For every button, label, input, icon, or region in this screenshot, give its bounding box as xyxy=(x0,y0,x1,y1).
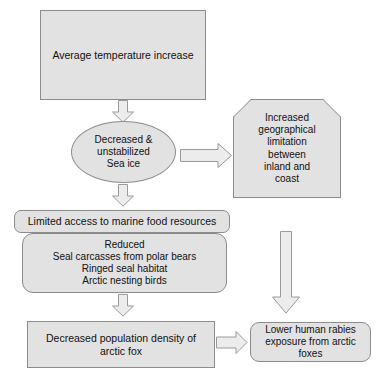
node-decreased-population-density-arctic-fox: Decreased population density of arctic f… xyxy=(27,321,215,368)
node-label: Lower human rabies exposure from arctic … xyxy=(265,324,356,359)
node-limited-access-to-marine-food-resources: Limited access to marine food resources xyxy=(14,210,230,233)
node-label: Decreased population density of arctic f… xyxy=(46,332,196,357)
node-increased-geographical-limitation: Increased geographical limitation betwee… xyxy=(233,99,341,198)
node-average-temperature-increase: Average temperature increase xyxy=(40,10,206,100)
flowchart-canvas: Average temperature increase Decreased &… xyxy=(0,0,382,379)
arrow-down-food-resources-to-fox-density xyxy=(111,294,135,317)
node-lower-human-rabies-exposure: Lower human rabies exposure from arctic … xyxy=(250,322,371,362)
node-label: Reduced Seal carcasses from polar bears … xyxy=(53,239,196,286)
node-reduced-resources-list: Reduced Seal carcasses from polar bears … xyxy=(22,233,227,293)
node-label: Average temperature increase xyxy=(52,49,193,61)
arrow-down-geographical-limitation-to-rabies xyxy=(271,231,301,314)
node-label: Decreased & unstabilized Sea ice xyxy=(95,134,153,169)
arrow-right-sea-ice-to-geographical-limitation xyxy=(180,142,233,169)
arrow-right-fox-density-to-rabies xyxy=(216,330,248,355)
arrow-down-sea-ice-to-limited-access xyxy=(111,184,135,207)
node-decreased-unstabilized-sea-ice: Decreased & unstabilized Sea ice xyxy=(71,121,176,183)
arrow-down-temperature-to-sea-ice xyxy=(111,100,135,123)
node-label: Limited access to marine food resources xyxy=(28,215,217,227)
node-label: Increased geographical limitation betwee… xyxy=(233,112,341,185)
